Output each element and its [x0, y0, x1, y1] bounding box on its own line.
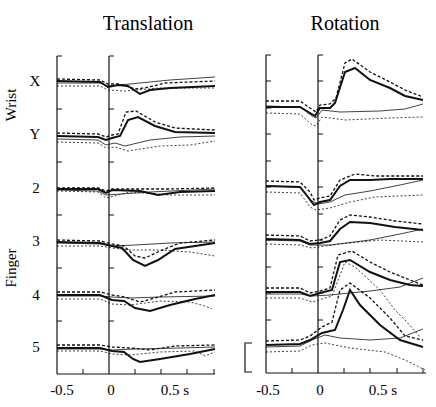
row-label-4: 4 [32, 287, 40, 303]
x-tick-right-05: 0.5 s [369, 382, 398, 398]
row-label-5: 5 [32, 339, 40, 355]
x-tick-right-0: 0 [316, 382, 324, 398]
row-label-3: 3 [32, 233, 40, 249]
title-translation: Translation [103, 12, 193, 34]
x-tick-left-05: 0.5 s [161, 382, 190, 398]
row-label-2: 2 [32, 180, 40, 196]
panel-translation [57, 56, 215, 374]
scale-bar [245, 343, 252, 372]
row-label-y: Y [30, 126, 41, 142]
group-label-finger: Finger [3, 248, 19, 287]
group-label-wrist: Wrist [3, 88, 19, 122]
x-tick-left-neg05: -0.5 [50, 382, 74, 398]
panel-rotation [266, 55, 426, 373]
x-tick-right-neg05: -0.5 [256, 382, 280, 398]
title-rotation: Rotation [311, 12, 380, 34]
figure: Translation Rotation Wrist Finger X Y 2 … [0, 0, 436, 407]
x-tick-left-0: 0 [107, 382, 115, 398]
row-label-x: X [30, 73, 41, 89]
